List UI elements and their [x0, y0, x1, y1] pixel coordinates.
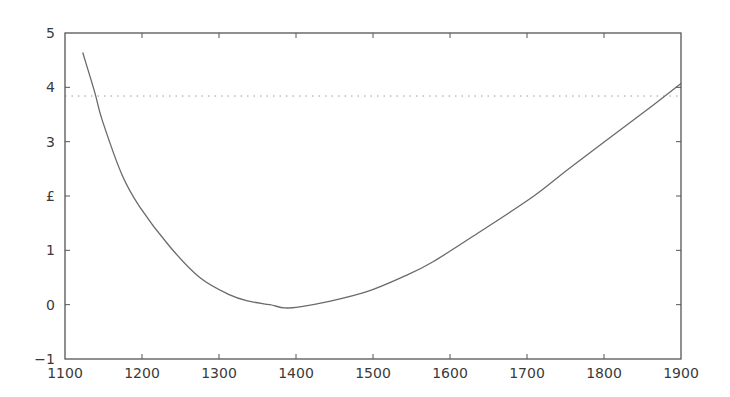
- line-chart: 110012001300140015001600170018001900 −10…: [0, 0, 730, 397]
- x-tick-label: 1600: [432, 365, 468, 381]
- x-tick-label: 1900: [663, 365, 699, 381]
- curve-layer: [83, 53, 681, 308]
- x-tick-label: 1300: [201, 365, 237, 381]
- y-axis: −101£345: [34, 25, 681, 367]
- y-tick-label: −1: [34, 351, 55, 367]
- x-tick-label: 1500: [355, 365, 391, 381]
- y-tick-label: 4: [46, 79, 55, 95]
- series-line-curve: [83, 53, 681, 308]
- y-tick-label: 3: [46, 134, 55, 150]
- plot-frame: [65, 33, 681, 359]
- chart-canvas: 110012001300140015001600170018001900 −10…: [0, 0, 730, 397]
- x-tick-label: 1700: [509, 365, 545, 381]
- x-tick-label: 1200: [124, 365, 160, 381]
- y-tick-label: 0: [46, 297, 55, 313]
- x-tick-label: 1100: [47, 365, 83, 381]
- x-axis: 110012001300140015001600170018001900: [47, 33, 699, 381]
- y-tick-label: £: [46, 188, 55, 204]
- y-tick-label: 5: [46, 25, 55, 41]
- y-tick-label: 1: [46, 242, 55, 258]
- x-tick-label: 1800: [586, 365, 622, 381]
- x-tick-label: 1400: [278, 365, 314, 381]
